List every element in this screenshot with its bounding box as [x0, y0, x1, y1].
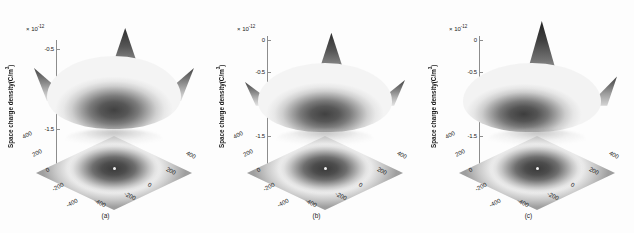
x-tick-b-0: 400: [232, 130, 244, 140]
panel-caption-a: (a): [0, 212, 211, 219]
surface-plot-a: [34, 28, 194, 146]
base-center-marker-c: [536, 167, 539, 170]
panel-caption-b: (b): [211, 212, 422, 219]
base-center-marker-b: [324, 167, 327, 170]
z-axis-title-b: Space charge density(C/m3): [215, 46, 226, 166]
surface-plot-b: [245, 28, 405, 146]
panel-b: × 10-12 Space charge density(C/m3) 0 -0.…: [211, 0, 422, 233]
base-center-marker-a: [113, 167, 116, 170]
z-axis-title-c: Space charge density(C/m3): [427, 46, 438, 166]
panel-c: × 10-12 Space charge density(C/m3) 0 -0.…: [423, 0, 634, 233]
figure-three-surface-plots: × 10-12 Space charge density(C/m3) -0.5 …: [0, 0, 634, 233]
surface-plot-c: [457, 28, 617, 146]
x-tick-c-0: 400: [444, 130, 456, 140]
z-axis-title-a: Space charge density(C/m3): [4, 46, 15, 166]
x-tick-a-0: 400: [21, 130, 33, 140]
panel-a: × 10-12 Space charge density(C/m3) -0.5 …: [0, 0, 211, 233]
panel-caption-c: (c): [423, 212, 634, 219]
